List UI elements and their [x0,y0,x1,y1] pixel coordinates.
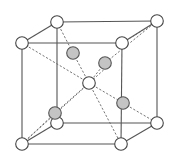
white-atom-ftl [16,37,29,50]
white-atom-fbr [115,138,128,151]
gray-atom-g2 [99,57,112,70]
white-atom-bbr [151,117,164,130]
bond-btr-g2 [105,21,157,63]
white-atom-ftr [116,37,129,50]
bond-fbl-ftr_offset [22,66,108,144]
gray-atom-g3 [49,107,62,120]
white-atom-fbl [16,138,29,151]
bond-center-fbr [89,83,121,144]
crystal-structure-diagram [0,0,174,162]
gray-atom-g1 [67,47,80,60]
bond-ftl-center [22,43,89,83]
cube-edge-ftr-fbr [121,43,122,144]
gray-atom-g4 [117,97,130,110]
cube-edge-btl-btr [57,21,157,22]
white-atom-center [83,77,96,90]
white-atom-btr [151,15,164,28]
white-atom-btl [51,16,64,29]
